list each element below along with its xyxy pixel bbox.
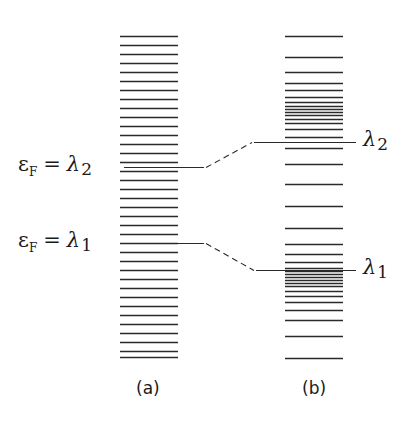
fermi-subscript: F (29, 241, 37, 255)
lambda-symbol: λ (363, 255, 376, 279)
panel-a-label: (a) (136, 378, 160, 398)
fermi-level-lambda2-label: εF=λ2 (18, 152, 92, 176)
lambda-subscript: 2 (377, 134, 388, 154)
lambda-subscript: 1 (81, 235, 92, 255)
panel-b-label: (b) (302, 378, 326, 398)
connector-dashed (206, 143, 252, 168)
energy-levels-panel-a (120, 37, 178, 358)
lambda-subscript: 1 (377, 262, 388, 282)
fermi-subscript: F (29, 165, 37, 179)
lambda-subscript: 2 (81, 159, 92, 179)
energy-levels-panel-b (285, 37, 343, 359)
lambda-symbol: λ (67, 152, 80, 176)
epsilon-symbol: ε (18, 152, 29, 176)
lambda-symbol: λ (67, 228, 80, 252)
epsilon-symbol: ε (18, 228, 29, 252)
equals-sign: = (43, 228, 61, 252)
lambda2-label: λ2 (363, 127, 388, 151)
lambda1-label: λ1 (363, 255, 388, 279)
connector-dashed (206, 244, 254, 271)
energy-level-diagram (0, 0, 413, 425)
equals-sign: = (43, 152, 61, 176)
fermi-level-lambda1-label: εF=λ1 (18, 228, 92, 252)
lambda-symbol: λ (363, 127, 376, 151)
